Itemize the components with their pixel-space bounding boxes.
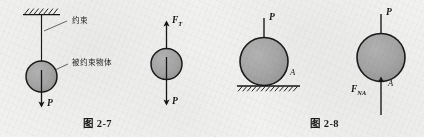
mechanics-figure-drawing [0, 0, 424, 137]
ceiling-hatching [25, 9, 58, 15]
contact-point-label-panel4: A [388, 78, 393, 88]
applied-force-label-panel3: P [269, 12, 275, 22]
tension-force-subscript: T [178, 20, 182, 27]
panel-ball-on-ground [237, 18, 300, 91]
constraint-label: 约束 [72, 14, 88, 25]
ball-circle [240, 38, 288, 86]
tension-force-label: FT [172, 15, 182, 27]
figure-page: 约束 被约束物体 P FT P 图 2-7 P A P A FNA 图 2-8 [0, 0, 424, 137]
constrained-body-label: 被约束物体 [72, 56, 112, 67]
weight-force-label-panel2: P [172, 96, 178, 106]
applied-force-label-panel4: P [386, 7, 392, 17]
constraint-leader-line [44, 21, 67, 31]
free-body-circle [357, 34, 405, 82]
panel-constraint [23, 9, 68, 106]
figure-caption-2-8: 图 2-8 [310, 115, 339, 130]
panel-free-body-2-8 [357, 14, 405, 115]
normal-reaction-subscript: NA [357, 89, 366, 96]
weight-force-label-panel1: P [47, 98, 53, 108]
figure-caption-2-7: 图 2-7 [83, 115, 112, 130]
contact-point-label-panel3: A [290, 67, 295, 77]
body-leader-line [55, 64, 68, 70]
ground-hatching [238, 86, 298, 91]
normal-reaction-label: FNA [351, 84, 366, 96]
panel-free-body-2-7 [151, 22, 182, 104]
